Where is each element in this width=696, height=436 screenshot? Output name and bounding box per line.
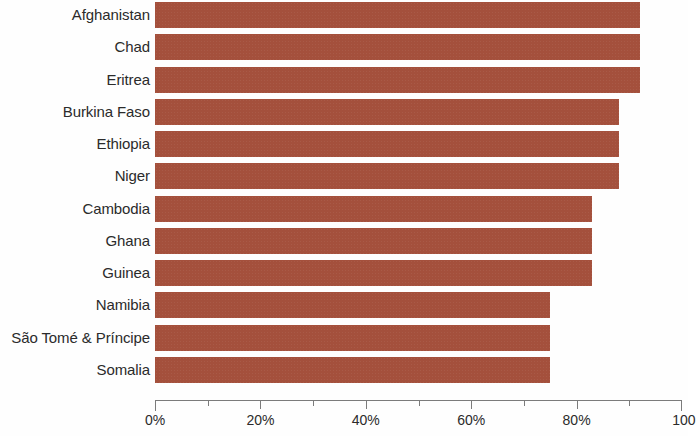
bar bbox=[155, 357, 550, 383]
x-axis-tick bbox=[629, 400, 630, 406]
bar-track bbox=[155, 131, 682, 157]
bar-category-label: Cambodia bbox=[82, 196, 150, 222]
x-axis-tick-label: 100 bbox=[672, 412, 695, 428]
bar-track bbox=[155, 357, 682, 383]
bar bbox=[155, 163, 619, 189]
bar-category-label: Burkina Faso bbox=[63, 99, 150, 125]
bar bbox=[155, 34, 640, 60]
bar-row: Burkina Faso bbox=[0, 99, 688, 125]
bar-row: Ghana bbox=[0, 228, 688, 254]
bar-row: Ethiopia bbox=[0, 131, 688, 157]
x-axis-tick bbox=[577, 400, 578, 409]
bar bbox=[155, 131, 619, 157]
bar-row: Namibia bbox=[0, 292, 688, 318]
x-axis-tick bbox=[313, 400, 314, 406]
bar-category-label: Eritrea bbox=[107, 67, 150, 93]
x-axis-tick bbox=[419, 400, 420, 406]
bar bbox=[155, 2, 640, 28]
bar-track bbox=[155, 163, 682, 189]
bar-track bbox=[155, 67, 682, 93]
bar-category-label: Ethiopia bbox=[97, 131, 150, 157]
bar-track bbox=[155, 196, 682, 222]
bar-track bbox=[155, 99, 682, 125]
x-axis-tick bbox=[681, 400, 682, 411]
bar-category-label: Guinea bbox=[102, 260, 150, 286]
bar-track bbox=[155, 260, 682, 286]
plot-area: AfghanistanChadEritreaBurkina FasoEthiop… bbox=[0, 0, 688, 400]
bar-row: São Tomé & Príncipe bbox=[0, 325, 688, 351]
bar bbox=[155, 292, 550, 318]
bar bbox=[155, 99, 619, 125]
x-axis-tick bbox=[524, 400, 525, 406]
bar bbox=[155, 325, 550, 351]
x-axis-tick-label: 80% bbox=[563, 412, 591, 428]
x-axis-tick bbox=[366, 400, 367, 409]
bar-track bbox=[155, 292, 682, 318]
bar bbox=[155, 260, 592, 286]
x-axis-tick bbox=[471, 400, 472, 409]
x-axis-tick bbox=[155, 400, 156, 411]
bar-row: Cambodia bbox=[0, 196, 688, 222]
bar bbox=[155, 67, 640, 93]
bar-category-label: Niger bbox=[115, 163, 150, 189]
bar bbox=[155, 228, 592, 254]
bar-category-label: Ghana bbox=[105, 228, 150, 254]
bar-row: Afghanistan bbox=[0, 2, 688, 28]
bar-category-label: São Tomé & Príncipe bbox=[11, 325, 150, 351]
x-axis-tick bbox=[208, 400, 209, 406]
bar-row: Somalia bbox=[0, 357, 688, 383]
bar-track bbox=[155, 2, 682, 28]
bar-track bbox=[155, 325, 682, 351]
bar-row: Eritrea bbox=[0, 67, 688, 93]
x-axis-tick-label: 60% bbox=[457, 412, 485, 428]
bar-row: Niger bbox=[0, 163, 688, 189]
bar-row: Guinea bbox=[0, 260, 688, 286]
bar-category-label: Namibia bbox=[96, 292, 150, 318]
x-axis-tick bbox=[260, 400, 261, 409]
bar-category-label: Chad bbox=[115, 34, 150, 60]
bar-row: Chad bbox=[0, 34, 688, 60]
x-axis-tick-label: 0% bbox=[145, 412, 165, 428]
x-axis-tick-label: 40% bbox=[352, 412, 380, 428]
bar-category-label: Afghanistan bbox=[72, 2, 150, 28]
bar-category-label: Somalia bbox=[97, 357, 151, 383]
x-axis-tick-label: 20% bbox=[246, 412, 274, 428]
x-axis: 0%20%40%60%80%100 bbox=[155, 400, 682, 436]
bar-track bbox=[155, 34, 682, 60]
bar-track bbox=[155, 228, 682, 254]
bar bbox=[155, 196, 592, 222]
